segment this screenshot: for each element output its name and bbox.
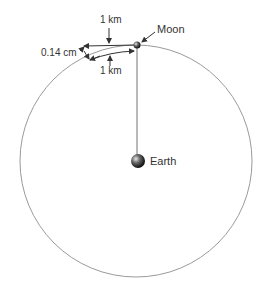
orbit-path-arrow-tail (90, 56, 100, 60)
earth-icon (131, 154, 145, 168)
moon-label: Moon (157, 24, 185, 35)
moon-leader-line (142, 32, 155, 42)
top-distance-label: 1 km (100, 15, 122, 25)
moon-icon (134, 42, 141, 49)
fall-arrow-top (80, 47, 84, 51)
earth-label: Earth (150, 156, 176, 167)
fall-distance-label: 0.14 cm (41, 48, 77, 58)
orbit-diagram (0, 0, 270, 290)
bottom-distance-label: 1 km (100, 66, 122, 76)
tangent-arrow (84, 45, 136, 46)
